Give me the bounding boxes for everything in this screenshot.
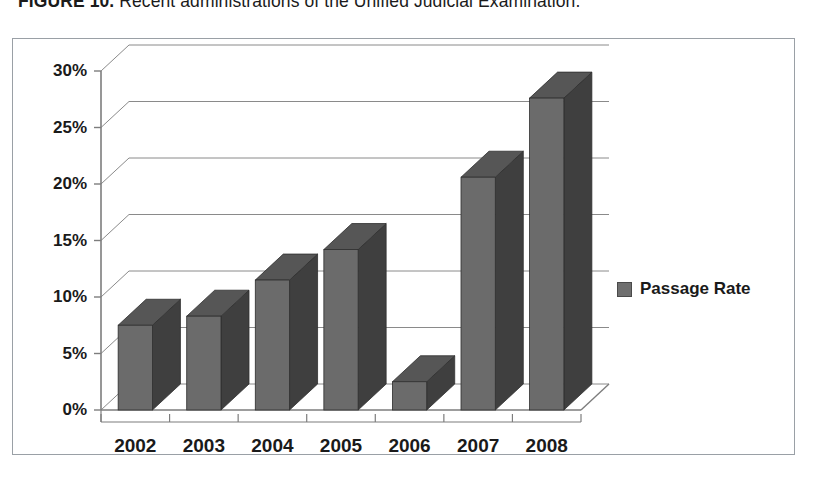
- x-axis: 2002200320042005200620072008: [13, 39, 796, 456]
- chart-container: 0%5%10%15%20%25%30% 20022003200420052006…: [12, 38, 795, 455]
- x-axis-tick-label: 2004: [251, 435, 293, 457]
- figure-number: FIGURE 10.: [18, 0, 114, 11]
- x-axis-tick-label: 2008: [526, 435, 568, 457]
- legend-swatch-passage-rate: [617, 282, 632, 297]
- x-axis-tick-label: 2003: [183, 435, 225, 457]
- x-axis-tick-label: 2007: [457, 435, 499, 457]
- figure-caption-text: Recent administrations of the Unified Ju…: [119, 0, 580, 11]
- chart-legend: Passage Rate: [617, 279, 751, 299]
- x-axis-tick-label: 2005: [320, 435, 362, 457]
- figure-caption-region: FIGURE 10. Recent administrations of the…: [0, 0, 836, 22]
- figure-caption: FIGURE 10. Recent administrations of the…: [18, 0, 580, 12]
- x-axis-tick-label: 2002: [114, 435, 156, 457]
- legend-label-passage-rate: Passage Rate: [640, 279, 751, 299]
- x-axis-tick-label: 2006: [388, 435, 430, 457]
